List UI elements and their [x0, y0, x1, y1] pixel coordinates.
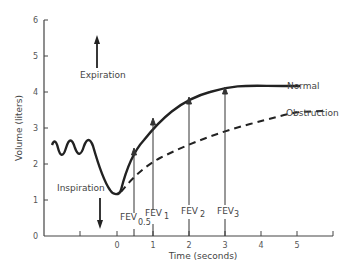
- x-axis-label: Time (seconds): [168, 251, 238, 261]
- x-tick-label: 4: [258, 241, 263, 250]
- x-tick-label: 1: [150, 241, 155, 250]
- y-tick-label: 2: [33, 160, 38, 169]
- y-axis-label: Volume (liters): [14, 95, 24, 161]
- normal-label: Normal: [287, 81, 320, 91]
- y-tick-label: 1: [33, 196, 38, 205]
- x-tick-label: 5: [294, 241, 299, 250]
- x-tick-label: 3: [222, 241, 227, 250]
- x-tick-label: 0: [114, 241, 119, 250]
- x-tick-label: 2: [186, 241, 191, 250]
- y-tick-label: 4: [33, 88, 38, 97]
- y-tick-label: 0: [33, 232, 38, 241]
- obstruction-label: Obstruction: [286, 108, 339, 118]
- y-tick-label: 5: [33, 52, 38, 61]
- normal-curve: [52, 86, 300, 194]
- spirometry-diagram: 0 1 2 3 4 5 6 0 1 2 3 4 5 Time (seconds)…: [0, 0, 349, 270]
- arrow-down-icon: [97, 220, 103, 229]
- inspiration-label: Inspiration: [57, 183, 105, 193]
- y-tick-label: 3: [33, 124, 38, 133]
- expiration-label: Expiration: [80, 70, 126, 80]
- arrow-up-icon: [94, 35, 100, 44]
- y-tick-label: 6: [33, 16, 38, 25]
